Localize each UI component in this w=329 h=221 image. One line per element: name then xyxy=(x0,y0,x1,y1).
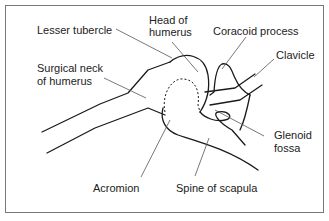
leader-spine-of-scapula xyxy=(195,138,209,176)
label-surgical-neck-line1: Surgical neck xyxy=(37,62,103,75)
leader-clavicle xyxy=(254,59,274,77)
label-clavicle: Clavicle xyxy=(276,49,315,62)
scapula-body xyxy=(162,108,258,170)
label-glenoid-fossa-line1: Glenoid xyxy=(274,129,312,142)
scapula-edge xyxy=(240,95,250,130)
label-acromion: Acromion xyxy=(93,182,139,195)
leader-acromion xyxy=(141,120,170,177)
label-glenoid-fossa-line2: fossa xyxy=(274,142,300,155)
label-lesser-tubercle: Lesser tubercle xyxy=(37,24,112,37)
humeral-head xyxy=(170,56,209,112)
humerus-shaft-lower xyxy=(47,108,165,153)
humeral-head-hidden-outline xyxy=(164,79,200,112)
label-coracoid-process: Coracoid process xyxy=(213,25,299,38)
leader-coracoid xyxy=(222,37,246,69)
label-surgical-neck-line2: of humerus xyxy=(37,75,92,88)
label-head-of-humerus-line2: humerus xyxy=(149,26,192,39)
label-spine-of-scapula: Spine of scapula xyxy=(176,182,257,195)
clavicle-upper xyxy=(205,74,255,92)
glenoid-rim xyxy=(200,112,245,145)
leader-surgical-neck xyxy=(104,78,146,98)
